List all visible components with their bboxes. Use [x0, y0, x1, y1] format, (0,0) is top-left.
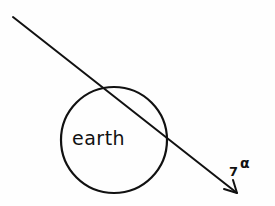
particle-symbol: 7	[229, 164, 238, 179]
diagram-canvas: earth 7α	[0, 0, 275, 206]
trajectory-line	[13, 17, 237, 193]
particle-label: 7α	[229, 158, 250, 179]
particle-superscript: α	[240, 155, 250, 171]
earth-label: earth	[72, 127, 125, 149]
